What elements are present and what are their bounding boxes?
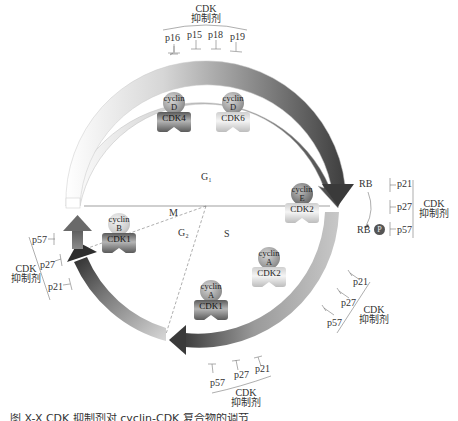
phase-label-s: S [224, 229, 230, 239]
phase-label-g1: G₁ [201, 172, 212, 182]
cdk1-block: CDK1 [102, 233, 136, 253]
inhibitor-p27: p27 [397, 202, 412, 212]
cyclin-e-sphere: cyclinE [291, 183, 313, 205]
phase-label-g2: G₂ [178, 228, 189, 238]
inhibitor-p19: p19 [230, 32, 245, 42]
inhibitor-p21: p21 [255, 364, 270, 374]
figure-caption: 图 X-X CDK 抑制剂对 cyclin-CDK 复合物的调节 [10, 413, 249, 421]
cycle-arrows-graphic [0, 0, 458, 421]
rb-phosphorylation-arrow [366, 192, 371, 226]
cdk2-block: CDK2 [285, 203, 319, 223]
rb-phosphorylated-label: RB [357, 225, 370, 235]
cdk6-block: CDK6 [216, 112, 250, 132]
left-inhibitor-title: CDK 抑制剂 [8, 264, 44, 284]
inhibitor-p57: p57 [327, 318, 342, 328]
s-arrowhead [169, 325, 186, 355]
complex-cyclin-d-cdk6: cyclinD CDK6 [216, 92, 250, 136]
bottom-inhibitor-title: CDK 抑制剂 [228, 388, 264, 408]
m-arrow-shaft [72, 229, 83, 249]
rb-label: RB [359, 179, 372, 189]
right-inhibitor-title: CDK 抑制剂 [416, 199, 452, 219]
g2-arc-arrow [74, 257, 166, 341]
cyclin-a-sphere: cyclinA [200, 280, 222, 302]
cdk4-block: CDK4 [157, 112, 191, 132]
cyclin-b-sphere: cyclinB [108, 213, 130, 235]
complex-cyclin-d-cdk4: cyclinD CDK4 [157, 92, 191, 136]
inhibitor-p57: p57 [397, 225, 412, 235]
cyclin-d-sphere: cyclinD [163, 92, 185, 114]
inhibitor-p21: p21 [353, 277, 368, 287]
inhibitor-p27: p27 [234, 370, 249, 380]
lower-right-inhibitor-title: CDK 抑制剂 [356, 305, 392, 325]
inhibitor-p16: p16 [165, 33, 180, 43]
inhibitor-p27: p27 [341, 298, 356, 308]
cdk1-block: CDK1 [194, 300, 228, 320]
phosphate-icon: P [374, 224, 385, 235]
top-inhibitor-title: CDK 抑制剂 [188, 4, 224, 24]
top-inhibitor-bracket [163, 25, 247, 30]
complex-cyclin-a-cdk2: cyclinA CDK2 [252, 247, 286, 291]
cell-cycle-diagram: G₁ M G₂ S cyclinD CDK4 cyclinD CDK6 cycl… [0, 0, 458, 421]
inhibitor-p21: p21 [48, 282, 63, 292]
m-arrowhead [63, 215, 92, 231]
inhibitor-p18: p18 [208, 30, 223, 40]
inhibitor-p15: p15 [187, 30, 202, 40]
cdk2-block: CDK2 [252, 267, 286, 287]
inhibitor-p57: p57 [32, 235, 47, 245]
complex-cyclin-b-cdk1: cyclinB CDK1 [102, 213, 136, 257]
cyclin-d-sphere: cyclinD [222, 92, 244, 114]
complex-cyclin-e-cdk2: cyclinE CDK2 [285, 183, 319, 227]
cyclin-a-sphere: cyclinA [258, 247, 280, 269]
phase-label-m: M [169, 208, 178, 218]
inhibitor-p21: p21 [397, 179, 412, 189]
inhibitor-p57: p57 [210, 378, 225, 388]
complex-cyclin-a-cdk1: cyclinA CDK1 [194, 280, 228, 324]
